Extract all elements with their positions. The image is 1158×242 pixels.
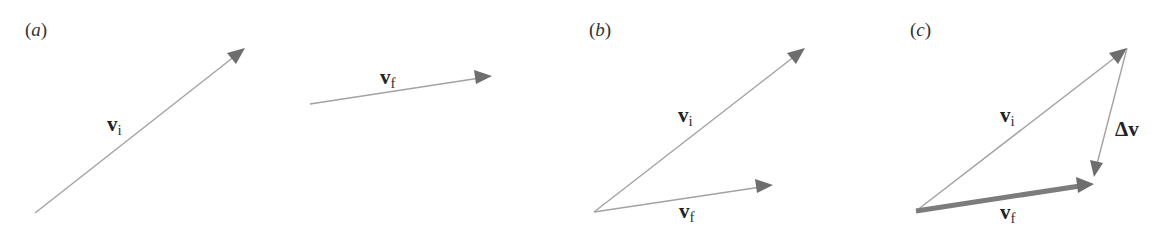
panel-b-label: (b) xyxy=(589,19,611,41)
vf-label-c: vf xyxy=(1000,200,1016,226)
vector-vf-a xyxy=(310,70,492,104)
vector-delta-v xyxy=(1090,48,1127,177)
panel-b: (b) vi vf xyxy=(589,19,805,225)
vi-shaft xyxy=(35,56,235,213)
vi-label-a: vi xyxy=(107,112,122,138)
panel-a: (a) vi vf xyxy=(25,19,492,213)
delta-v-label: Δv xyxy=(1115,117,1139,141)
vf-shaft-thick xyxy=(916,186,1080,211)
vi-label-c: vi xyxy=(1000,103,1015,129)
arrowhead-icon xyxy=(787,48,805,64)
arrowhead-icon xyxy=(1076,177,1094,193)
vf-shaft xyxy=(594,187,761,212)
vector-vi-a xyxy=(35,48,245,213)
delta-v-shaft xyxy=(1097,48,1127,164)
velocity-vector-diagram: (a) vi vf (b) vi vf (c) vi xyxy=(0,0,1158,242)
panel-c: (c) vi vf Δv xyxy=(910,19,1139,226)
vector-vi-b xyxy=(594,48,805,212)
arrowhead-icon xyxy=(227,48,245,64)
vector-vi-c xyxy=(916,48,1127,211)
arrowhead-icon xyxy=(474,70,492,84)
vi-label-b: vi xyxy=(678,103,693,129)
arrowhead-icon xyxy=(1090,160,1103,177)
panel-a-label: (a) xyxy=(25,19,47,41)
arrowhead-icon xyxy=(755,179,773,193)
vf-label-b: vf xyxy=(679,199,695,225)
panel-c-label: (c) xyxy=(910,19,931,41)
vf-label-a: vf xyxy=(380,65,396,91)
